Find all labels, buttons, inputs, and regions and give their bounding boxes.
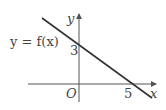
graph: y y = f(x) 3 O 5 x [0, 0, 166, 110]
function-line [42, 18, 152, 98]
function-label: y = f(x) [9, 34, 59, 49]
origin-label: O [66, 86, 77, 101]
x-intercept-label: 5 [124, 86, 132, 101]
function-label-text: y = f(x) [9, 34, 59, 49]
y-intercept-label: 3 [70, 43, 78, 58]
x-axis-label: x [150, 86, 158, 101]
y-axis-label: y [66, 11, 75, 26]
